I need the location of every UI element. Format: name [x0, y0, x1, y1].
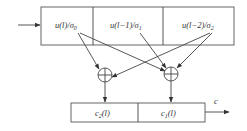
xor-adder-right: [164, 67, 178, 81]
shift-register: u(l)/σ0 u(l−1)/σ1 u(l−2)/σ2: [41, 7, 234, 45]
output-cell-c2: c2(l): [95, 108, 110, 119]
xor-adder-left: [98, 68, 112, 82]
output-label: c: [214, 96, 218, 106]
register-cell-1: u(l−1)/σ1: [110, 20, 142, 31]
convolutional-encoder-diagram: u(l)/σ0 u(l−1)/σ1 u(l−2)/σ2 c2(l) c1(l) …: [0, 0, 247, 131]
output-cell-c1: c1(l): [161, 108, 176, 119]
register-cell-0: u(l)/σ0: [55, 20, 77, 31]
register-cell-2: u(l−2)/σ2: [182, 20, 214, 31]
output-register: c2(l) c1(l): [71, 103, 205, 122]
